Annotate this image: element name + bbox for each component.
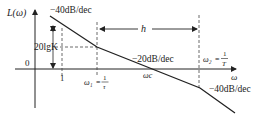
bode-diagram: L(ω) 0 ω −40dB/dec −20dB/dec −40dB/dec 2… [0, 0, 263, 116]
slope-label-third: −40dB/dec [209, 84, 251, 94]
y-axis-label: L(ω) [6, 7, 27, 19]
omega2-label: ω₂ = 1 T [203, 50, 228, 68]
gain-label: 20lgK [34, 42, 58, 52]
svg-text:=: = [96, 78, 101, 87]
svg-text:τ: τ [103, 83, 106, 91]
svg-text:=: = [215, 55, 220, 64]
x-axis-label: ω [231, 72, 237, 82]
svg-text:T: T [222, 60, 227, 68]
h-label: h [141, 23, 146, 34]
slope-label-second: −20dB/dec [132, 54, 174, 64]
svg-text:1: 1 [103, 74, 107, 82]
origin-label: 0 [25, 58, 30, 68]
svg-text:ω₁: ω₁ [84, 78, 93, 87]
svg-text:ω₂: ω₂ [203, 55, 212, 64]
omega-c-label: ωc [143, 71, 153, 80]
slope-label-first: −40dB/dec [50, 5, 92, 15]
tick-one-label: 1 [60, 73, 64, 83]
gain-arrow-top [50, 25, 56, 31]
svg-text:1: 1 [223, 50, 227, 58]
omega1-label: ω₁ = 1 τ [84, 74, 109, 91]
